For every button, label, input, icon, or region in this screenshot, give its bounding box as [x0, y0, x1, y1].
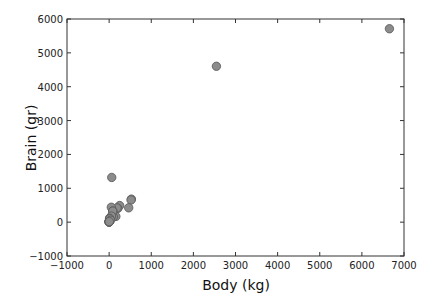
x-tick-label: 1000 [139, 260, 164, 271]
x-tick-label: 0 [106, 260, 112, 271]
y-tick-label: 3000 [38, 116, 63, 127]
scatter-chart: −100001000200030004000500060007000 −1000… [0, 0, 432, 298]
data-point [108, 173, 116, 181]
y-tick-label: 2000 [38, 149, 63, 160]
x-tick-label: 7000 [391, 260, 416, 271]
x-axis-label: Body (kg) [202, 277, 270, 293]
y-tick-label: −1000 [29, 251, 63, 262]
y-tick-label: 5000 [38, 48, 63, 59]
y-tick-label: 1000 [38, 183, 63, 194]
x-tick-label: 2000 [181, 260, 206, 271]
data-point [127, 196, 135, 204]
x-tick-label: 3000 [223, 260, 248, 271]
data-point [125, 204, 133, 212]
x-tick-label: 5000 [307, 260, 332, 271]
data-point [212, 62, 220, 70]
x-tick-label: 6000 [349, 260, 374, 271]
y-tick-label: 0 [57, 217, 63, 228]
y-tick-label: 4000 [38, 82, 63, 93]
y-axis-label: Brain (gr) [23, 105, 39, 172]
data-point [105, 217, 113, 225]
x-tick-label: 4000 [265, 260, 290, 271]
data-point [385, 25, 393, 33]
y-tick-label: 6000 [38, 14, 63, 25]
